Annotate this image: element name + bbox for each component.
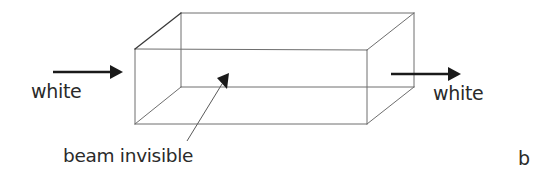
box-depth-edge-top-left: [135, 13, 181, 49]
beam-pointer-arrow-icon: [187, 73, 229, 141]
box-front-top-edge: [135, 49, 367, 50]
box-depth-edge-bottom-left: [135, 87, 181, 124]
input-light-label: white: [31, 82, 82, 101]
output-light-label: white: [433, 84, 484, 103]
box-wireframe: [135, 13, 414, 124]
panel-letter-label: b: [518, 149, 530, 168]
output-arrow-icon: [391, 67, 461, 81]
box-depth-edge-top-right: [367, 13, 414, 50]
input-arrow-icon: [53, 65, 123, 79]
beam-annotation-label: beam invisible: [63, 147, 193, 166]
box-depth-edge-bottom-right: [367, 87, 414, 124]
